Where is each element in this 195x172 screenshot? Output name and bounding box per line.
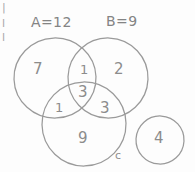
region-c-only-value: 9 bbox=[78, 131, 88, 146]
region-b-and-c-value: 3 bbox=[100, 101, 110, 116]
region-a-only-value: 7 bbox=[33, 62, 43, 77]
set-a-label: A=12 bbox=[31, 15, 72, 29]
sketch-canvas: | ꞁ ꞁ A=12 B=9 c 7 1 2 1 3 3 9 4 bbox=[0, 0, 195, 172]
edge-fragment-3: ꞁ bbox=[2, 30, 5, 41]
region-a-and-b-and-c-value: 3 bbox=[78, 85, 88, 100]
region-a-and-c-value: 1 bbox=[55, 101, 63, 114]
venn-diagram-drawing bbox=[0, 0, 195, 172]
set-b-label: B=9 bbox=[106, 14, 137, 28]
region-b-only-value: 2 bbox=[114, 62, 124, 77]
region-outside-value: 4 bbox=[154, 131, 164, 146]
set-c-label: c bbox=[115, 150, 121, 161]
edge-fragment-1: | bbox=[2, 2, 6, 13]
region-a-and-b-value: 1 bbox=[80, 63, 88, 76]
edge-fragment-2: ꞁ bbox=[2, 16, 5, 27]
